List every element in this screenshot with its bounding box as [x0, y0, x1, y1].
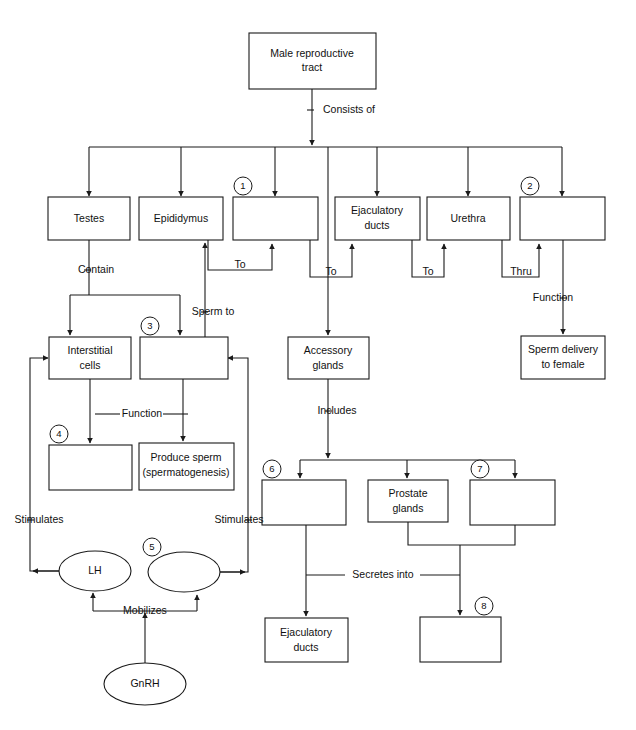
edge-label-includes: Includes	[317, 404, 356, 416]
edge-label-stimulates-left: Stimulates	[14, 513, 63, 525]
node-blank-3[interactable]: 3	[140, 317, 228, 379]
node-blank-7[interactable]: 7	[470, 460, 555, 525]
node-label-root-line1: Male reproductive	[270, 47, 354, 59]
node-testes[interactable]: Testes	[48, 197, 130, 240]
node-ejaculatory-ducts-bottom[interactable]: Ejaculatory ducts	[265, 618, 348, 662]
edge-label-contain: Contain	[78, 263, 114, 275]
node-sperm-delivery[interactable]: Sperm delivery to female	[521, 336, 605, 379]
node-box-blank7[interactable]	[470, 480, 555, 525]
edge-label-to-1: To	[234, 258, 245, 270]
edge-label-to-3: To	[422, 265, 433, 277]
node-produce-sperm[interactable]: Produce sperm (spermatogenesis)	[139, 443, 234, 490]
node-box-blank1[interactable]	[233, 197, 318, 240]
edge-label-stimulates-right: Stimulates	[214, 513, 263, 525]
node-label-produce-sperm-line2: (spermatogenesis)	[143, 466, 230, 478]
edge-label-to-2: To	[325, 265, 336, 277]
node-box-blank6[interactable]	[262, 480, 346, 525]
node-box-blank4[interactable]	[49, 445, 132, 490]
node-label-ejac-ducts-bottom-line2: ducts	[293, 641, 318, 653]
node-urethra[interactable]: Urethra	[427, 197, 510, 240]
node-label-root-line2: tract	[302, 61, 323, 73]
node-box-blank8[interactable]	[420, 617, 501, 662]
blank-marker-1-number: 1	[240, 180, 245, 191]
flowchart-diagram: Male reproductive tract Testes Epididymu…	[0, 0, 636, 730]
node-lh[interactable]: LH	[59, 551, 131, 591]
node-label-interstitial-line2: cells	[79, 359, 100, 371]
node-accessory-glands[interactable]: Accessory glands	[288, 337, 369, 379]
edge-label-function-left: Function	[122, 407, 162, 419]
node-label-interstitial-line1: Interstitial	[68, 344, 113, 356]
node-label-urethra: Urethra	[450, 212, 485, 224]
node-box-blank2[interactable]	[520, 197, 605, 240]
blank-marker-7-number: 7	[477, 463, 482, 474]
node-prostate-glands[interactable]: Prostate glands	[368, 480, 448, 522]
node-label-epididymus: Epididymus	[154, 212, 208, 224]
blank-marker-6-number: 6	[269, 463, 274, 474]
edge-label-secretes-into: Secretes into	[352, 568, 413, 580]
blank-marker-5-number: 5	[149, 541, 154, 552]
node-gnrh[interactable]: GnRH	[104, 663, 186, 705]
node-ellipse-blank5[interactable]	[148, 552, 220, 592]
edge-label-consists-of: Consists of	[323, 103, 375, 115]
edge-label-thru: Thru	[510, 265, 532, 277]
edge-label-sperm-to: Sperm to	[192, 305, 235, 317]
flowchart-canvas: Male reproductive tract Testes Epididymu…	[0, 0, 636, 730]
node-blank-5[interactable]: 5	[143, 538, 220, 592]
blank-marker-4-number: 4	[56, 428, 61, 439]
node-label-lh: LH	[88, 564, 101, 576]
node-label-accessory-line1: Accessory	[304, 344, 353, 356]
node-label-gnrh: GnRH	[130, 677, 159, 689]
node-label-ejac-ducts-top-line2: ducts	[364, 219, 389, 231]
blank-marker-3-number: 3	[147, 320, 152, 331]
node-label-produce-sperm-line1: Produce sperm	[150, 451, 221, 463]
blank-marker-2-number: 2	[527, 180, 532, 191]
node-label-testes: Testes	[74, 212, 104, 224]
node-label-ejac-ducts-bottom-line1: Ejaculatory	[280, 626, 333, 638]
node-label-prostate-line1: Prostate	[388, 487, 427, 499]
node-label-ejac-ducts-top-line1: Ejaculatory	[351, 204, 404, 216]
node-label-sperm-delivery-line1: Sperm delivery	[528, 343, 599, 355]
node-label-prostate-line2: glands	[393, 502, 424, 514]
edge-label-function-right: Function	[533, 291, 573, 303]
node-box-blank3[interactable]	[140, 337, 228, 379]
edge-label-mobilizes: Mobilizes	[123, 604, 167, 616]
node-blank-6[interactable]: 6	[262, 460, 346, 525]
node-male-reproductive-tract[interactable]: Male reproductive tract	[249, 33, 376, 89]
node-label-accessory-line2: glands	[313, 359, 344, 371]
blank-marker-8-number: 8	[481, 600, 486, 611]
node-interstitial-cells[interactable]: Interstitial cells	[49, 337, 131, 379]
node-label-sperm-delivery-line2: to female	[541, 358, 584, 370]
node-epididymus[interactable]: Epididymus	[139, 197, 223, 240]
node-ejaculatory-ducts-top[interactable]: Ejaculatory ducts	[335, 197, 420, 240]
